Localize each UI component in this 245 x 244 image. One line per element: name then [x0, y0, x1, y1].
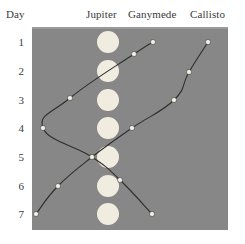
- column-header-callisto: Callisto: [190, 8, 225, 20]
- moon-position-chart: Day Jupiter Ganymede Callisto 1234567: [0, 0, 245, 244]
- day-tick-label: 3: [19, 94, 25, 106]
- column-header-ganymede: Ganymede: [128, 8, 176, 20]
- column-header-jupiter: Jupiter: [86, 8, 117, 20]
- day-tick-label: 7: [19, 208, 25, 220]
- plot-area: [32, 27, 228, 230]
- day-tick-label: 4: [19, 122, 25, 134]
- day-tick-label: 6: [19, 180, 25, 192]
- day-tick-label: 1: [19, 36, 25, 48]
- day-tick-label: 5: [19, 151, 25, 163]
- day-axis: 1234567: [0, 27, 32, 230]
- day-tick-label: 2: [19, 65, 25, 77]
- column-header-day: Day: [6, 8, 25, 20]
